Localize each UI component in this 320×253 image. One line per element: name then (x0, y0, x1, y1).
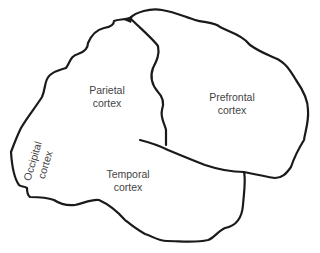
label-parietal-cortex: Parietal cortex (82, 84, 132, 110)
central-sulcus (130, 18, 166, 145)
label-prefrontal-line2: cortex (202, 104, 262, 117)
brain-diagram (0, 0, 320, 253)
label-parietal-line1: Parietal (82, 84, 132, 97)
label-prefrontal-cortex: Prefrontal cortex (202, 91, 262, 117)
label-parietal-line2: cortex (82, 97, 132, 110)
label-temporal-line2: cortex (100, 181, 156, 194)
label-temporal-line1: Temporal (100, 168, 156, 181)
brain-outline (11, 9, 308, 241)
label-temporal-cortex: Temporal cortex (100, 168, 156, 194)
label-prefrontal-line1: Prefrontal (202, 91, 262, 104)
